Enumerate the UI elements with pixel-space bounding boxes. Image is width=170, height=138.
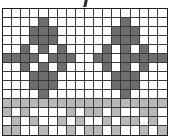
pattern-cell <box>131 9 140 18</box>
pattern-cell <box>76 99 85 108</box>
pattern-cell <box>131 45 140 54</box>
pattern-cell <box>12 108 21 117</box>
pattern-cell <box>49 54 58 63</box>
pattern-cell <box>30 27 39 36</box>
pattern-cell <box>67 54 76 63</box>
pattern-cell <box>131 27 140 36</box>
pattern-cell <box>30 72 39 81</box>
pattern-cell <box>21 9 30 18</box>
pattern-cell <box>131 126 140 135</box>
pattern-cell <box>158 117 167 126</box>
pattern-chart <box>0 0 170 138</box>
pattern-cell <box>121 63 130 72</box>
pattern-cell <box>76 108 85 117</box>
pattern-cell <box>58 72 67 81</box>
pattern-cell <box>67 99 76 108</box>
pattern-cell <box>3 90 12 99</box>
pattern-cell <box>30 45 39 54</box>
pattern-cell <box>76 63 85 72</box>
pattern-cell <box>94 45 103 54</box>
pattern-cell <box>39 117 48 126</box>
pattern-cell <box>49 9 58 18</box>
pattern-cell <box>94 81 103 90</box>
pattern-cell <box>149 126 158 135</box>
pattern-cell <box>58 18 67 27</box>
pattern-cell <box>121 36 130 45</box>
pattern-cell <box>76 126 85 135</box>
pattern-cell <box>49 81 58 90</box>
pattern-cell <box>103 27 112 36</box>
pattern-cell <box>131 108 140 117</box>
pattern-cell <box>67 18 76 27</box>
pattern-cell <box>3 81 12 90</box>
pattern-cell <box>3 36 12 45</box>
pattern-cell <box>58 36 67 45</box>
pattern-cell <box>58 9 67 18</box>
pattern-cell <box>85 90 94 99</box>
pattern-cell <box>3 126 12 135</box>
pattern-cell <box>58 81 67 90</box>
pattern-cell <box>85 99 94 108</box>
pattern-cell <box>112 108 121 117</box>
pattern-cell <box>112 27 121 36</box>
pattern-cell <box>58 27 67 36</box>
pattern-cell <box>103 9 112 18</box>
pattern-cell <box>85 108 94 117</box>
pattern-cell <box>21 81 30 90</box>
pattern-cell <box>49 90 58 99</box>
pattern-cell <box>49 18 58 27</box>
pattern-cell <box>94 18 103 27</box>
pattern-cell <box>140 81 149 90</box>
pattern-cell <box>140 18 149 27</box>
pattern-cell <box>12 72 21 81</box>
pattern-cell <box>121 9 130 18</box>
pattern-cell <box>30 126 39 135</box>
pattern-cell <box>3 108 12 117</box>
pattern-cell <box>76 117 85 126</box>
pattern-cell <box>21 126 30 135</box>
pattern-cell <box>140 108 149 117</box>
pattern-cell <box>12 9 21 18</box>
pattern-cell <box>21 63 30 72</box>
pattern-cell <box>49 99 58 108</box>
pattern-cell <box>3 45 12 54</box>
pattern-cell <box>3 99 12 108</box>
pattern-cell <box>112 45 121 54</box>
pattern-cell <box>131 63 140 72</box>
pattern-cell <box>30 9 39 18</box>
pattern-cell <box>39 63 48 72</box>
pattern-cell <box>58 126 67 135</box>
pattern-cell <box>131 81 140 90</box>
pattern-cell <box>21 90 30 99</box>
pattern-cell <box>131 54 140 63</box>
pattern-cell <box>49 63 58 72</box>
pattern-cell <box>112 81 121 90</box>
pattern-cell <box>76 72 85 81</box>
pattern-cell <box>39 99 48 108</box>
pattern-cell <box>149 54 158 63</box>
pattern-cell <box>112 9 121 18</box>
pattern-cell <box>58 63 67 72</box>
pattern-cell <box>58 45 67 54</box>
pattern-cell <box>21 18 30 27</box>
pattern-cell <box>103 54 112 63</box>
pattern-cell <box>121 117 130 126</box>
pattern-cell <box>140 45 149 54</box>
pattern-cell <box>12 126 21 135</box>
pattern-cell <box>131 72 140 81</box>
pattern-cell <box>58 108 67 117</box>
pattern-cell <box>94 90 103 99</box>
pattern-cell <box>30 63 39 72</box>
pattern-cell <box>21 54 30 63</box>
pattern-cell <box>85 54 94 63</box>
pattern-cell <box>158 9 167 18</box>
pattern-cell <box>3 18 12 27</box>
pattern-cell <box>158 99 167 108</box>
pattern-cell <box>12 90 21 99</box>
pattern-cell <box>112 99 121 108</box>
pattern-cell <box>112 63 121 72</box>
pattern-cell <box>67 36 76 45</box>
pattern-cell <box>76 18 85 27</box>
pattern-cell <box>39 45 48 54</box>
pattern-cell <box>121 126 130 135</box>
